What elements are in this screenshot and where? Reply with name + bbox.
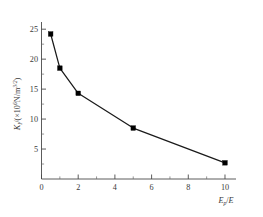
x-axis-title: Ep/E [217,196,233,206]
data-point-marker [58,66,63,71]
x-tick-label: 6 [150,183,154,192]
x-axis-tick-labels: 0246810 [39,183,229,192]
chart-figure: 0246810 510152025 KI/(×106N/m3/2) Ep/E [0,0,263,217]
x-tick-label: 4 [113,183,117,192]
y-axis-title: KI/(×106N/m3/2) [12,78,23,132]
data-point-marker [131,126,136,131]
y-tick-label: 10 [30,115,38,124]
y-tick-label: 15 [30,85,38,94]
y-tick-label: 20 [30,55,38,64]
chart-plot-area: 0246810 510152025 KI/(×106N/m3/2) Ep/E [0,0,263,217]
x-tick-label: 0 [39,183,43,192]
data-series-line [51,34,225,163]
y-tick-label: 25 [30,25,38,34]
data-series-markers [48,32,227,165]
data-point-marker [76,91,81,96]
y-axis-tick-labels: 510152025 [30,25,38,154]
x-tick-label: 10 [221,183,229,192]
y-tick-label: 5 [34,145,38,154]
x-tick-label: 2 [76,183,80,192]
y-axis-major-ticks [42,29,47,149]
data-point-marker [48,32,53,37]
data-point-marker [223,161,228,166]
x-tick-label: 8 [186,183,190,192]
